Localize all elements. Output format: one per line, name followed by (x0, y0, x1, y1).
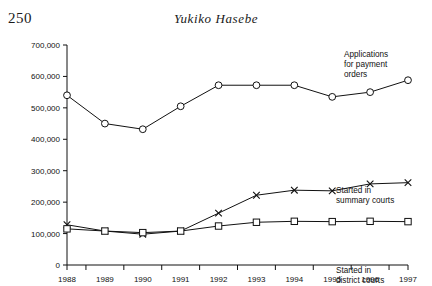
running-head: Yukiko Hasebe (0, 11, 432, 27)
series-label-line: for payment (344, 60, 388, 69)
series-label-3: Started indistrict courts (336, 266, 384, 285)
y-tick-label: 500,000 (31, 104, 60, 113)
series-label-line: Started in (336, 266, 371, 275)
data-point-square (253, 219, 259, 225)
data-point-square (177, 228, 183, 234)
line-chart-figure: 0100,000200,000300,000400,000500,000600,… (0, 30, 432, 286)
x-tick-label: 1997 (399, 275, 417, 284)
series-1 (64, 77, 412, 133)
series-label-line: district courts (336, 276, 384, 285)
series-line (67, 221, 408, 232)
x-tick-label: 1988 (58, 275, 76, 284)
data-point-circle (405, 77, 412, 84)
data-point-cross (215, 210, 222, 217)
series-3 (64, 218, 411, 236)
y-tick-label: 600,000 (31, 72, 60, 81)
series-label-line: orders (344, 70, 367, 79)
data-point-circle (329, 93, 336, 100)
chart-canvas: 0100,000200,000300,000400,000500,000600,… (0, 30, 432, 286)
y-tick-label: 300,000 (31, 167, 60, 176)
data-point-square (405, 218, 411, 224)
data-point-square (140, 229, 146, 235)
data-point-circle (253, 82, 260, 89)
x-tick-label: 1990 (134, 275, 152, 284)
series-line (67, 80, 408, 129)
x-tick-label: 1992 (210, 275, 228, 284)
x-tick-label: 1989 (96, 275, 114, 284)
data-point-circle (139, 126, 146, 133)
series-label-line: Applications (344, 50, 388, 59)
y-tick-label: 0 (56, 261, 61, 270)
x-tick-label: 1991 (172, 275, 190, 284)
x-tick-label: 1994 (285, 275, 303, 284)
data-point-square (215, 223, 221, 229)
y-axis-ticks: 0100,000200,000300,000400,000500,000600,… (31, 41, 67, 270)
series-label-line: summary courts (336, 196, 394, 205)
series-annotations: Applicationsfor paymentordersStarted ins… (336, 50, 394, 285)
data-point-circle (177, 103, 184, 110)
data-point-square (367, 218, 373, 224)
data-point-square (102, 228, 108, 234)
data-point-circle (367, 89, 374, 96)
y-tick-label: 700,000 (31, 41, 60, 50)
series-label-1: Applicationsfor paymentorders (344, 50, 388, 79)
data-point-square (291, 218, 297, 224)
data-point-circle (64, 92, 71, 99)
data-point-circle (215, 82, 222, 89)
series-label-2: Started insummary courts (336, 186, 394, 205)
data-point-circle (101, 120, 108, 127)
x-tick-label: 1993 (248, 275, 266, 284)
y-tick-label: 400,000 (31, 135, 60, 144)
data-point-square (329, 218, 335, 224)
y-tick-label: 100,000 (31, 230, 60, 239)
y-tick-label: 200,000 (31, 198, 60, 207)
data-point-circle (291, 82, 298, 89)
series-label-line: Started in (336, 186, 371, 195)
series-layer (64, 77, 412, 238)
data-point-square (64, 226, 70, 232)
